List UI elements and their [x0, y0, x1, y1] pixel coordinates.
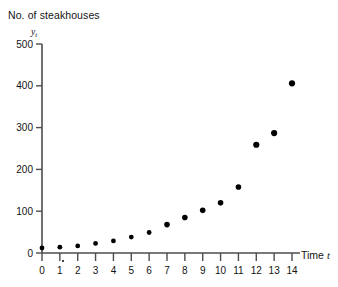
y-tick-label: 400 [16, 80, 33, 91]
x-tick-label: 8 [182, 265, 188, 276]
data-point [93, 241, 98, 246]
data-point-series [40, 80, 296, 250]
x-tick-label: 5 [129, 265, 135, 276]
data-point [147, 230, 152, 235]
y-tick-label: 100 [16, 206, 33, 217]
y-axis-tick-labels: 0100200300400500 [16, 39, 33, 259]
y-axis-group: 0100200300400500 [16, 39, 42, 259]
x-tick-label: 0 [39, 265, 45, 276]
x-tick-label: 2 [75, 265, 81, 276]
y-axis-ticks [36, 44, 42, 253]
y-tick-label: 200 [16, 164, 33, 175]
data-point [218, 200, 224, 206]
x-tick-label: 9 [200, 265, 206, 276]
y-tick-label: 300 [16, 122, 33, 133]
data-point [111, 238, 116, 243]
x-tick-label: 14 [286, 265, 298, 276]
y-tick-label: 0 [27, 248, 33, 259]
data-point [40, 246, 45, 251]
x-tick-label: 3 [93, 265, 99, 276]
scatter-plot: 0100200300400500 01234567891011121314 [0, 0, 338, 287]
data-point [271, 130, 277, 136]
x-tick-label: 12 [251, 265, 263, 276]
data-point [75, 243, 80, 248]
data-point [236, 184, 242, 190]
data-point [182, 215, 188, 221]
x-tick-label: 13 [269, 265, 281, 276]
x-tick-label: 7 [164, 265, 170, 276]
x-tick-label: 6 [146, 265, 152, 276]
data-point [200, 208, 206, 214]
data-point [57, 245, 62, 250]
x-axis-ticks [42, 253, 292, 261]
x-axis-group: 01234567891011121314 [39, 253, 300, 276]
data-point [129, 235, 134, 240]
x-tick-label: 1 [57, 265, 63, 276]
data-point [164, 222, 170, 228]
x-tick-label: 11 [233, 265, 244, 276]
data-point [289, 80, 295, 86]
data-point [253, 142, 259, 148]
x-axis-tick-labels: 01234567891011121314 [39, 265, 298, 276]
x-tick-label: 4 [111, 265, 117, 276]
y-tick-label: 500 [16, 39, 33, 50]
chart-container: No. of steakhouses yt Time t 01002003004… [0, 0, 338, 287]
x-tick-label: 10 [215, 265, 227, 276]
